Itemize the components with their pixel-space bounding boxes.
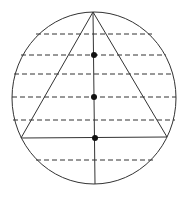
inscribed-triangle-diagram (0, 0, 189, 199)
point-marker-1 (91, 52, 97, 58)
point-marker-3 (92, 135, 98, 141)
point-marker-2 (91, 94, 97, 100)
